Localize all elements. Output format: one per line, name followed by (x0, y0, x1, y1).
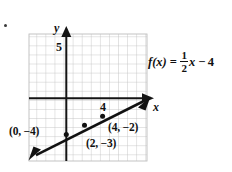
point-label-2-neg3: (2, −3) (86, 138, 116, 150)
y-axis-label: y (54, 22, 59, 34)
equation-operator: − (198, 55, 205, 70)
figure-container: y x 5 4 f(x) = 1 2 x − 4 (0, −4) (2, −3)… (0, 0, 232, 172)
function-equation: f(x) = 1 2 x − 4 (148, 50, 214, 74)
equation-fraction-one-half: 1 2 (180, 50, 188, 74)
equation-variable: x (189, 55, 195, 70)
point-label-4-neg2: (4, −2) (108, 122, 138, 134)
equation-equals-sign: = (170, 55, 177, 70)
point-marker-0-neg4 (64, 132, 69, 137)
equation-function-name: f(x) (148, 55, 167, 70)
point-label-y-intercept: (0, −4) (9, 126, 39, 138)
x-axis-tick-label-4: 4 (100, 101, 106, 113)
fraction-denominator: 2 (180, 61, 188, 74)
point-marker-4-neg2 (100, 114, 105, 119)
fraction-numerator: 1 (180, 50, 188, 62)
x-axis-label: x (153, 101, 159, 113)
y-axis-tick-label-5: 5 (56, 41, 62, 53)
y-axis-arrowhead (61, 26, 71, 37)
scan-artifact-speck (4, 24, 7, 27)
equation-constant: 4 (208, 55, 214, 70)
point-marker-2-neg3 (82, 123, 87, 128)
